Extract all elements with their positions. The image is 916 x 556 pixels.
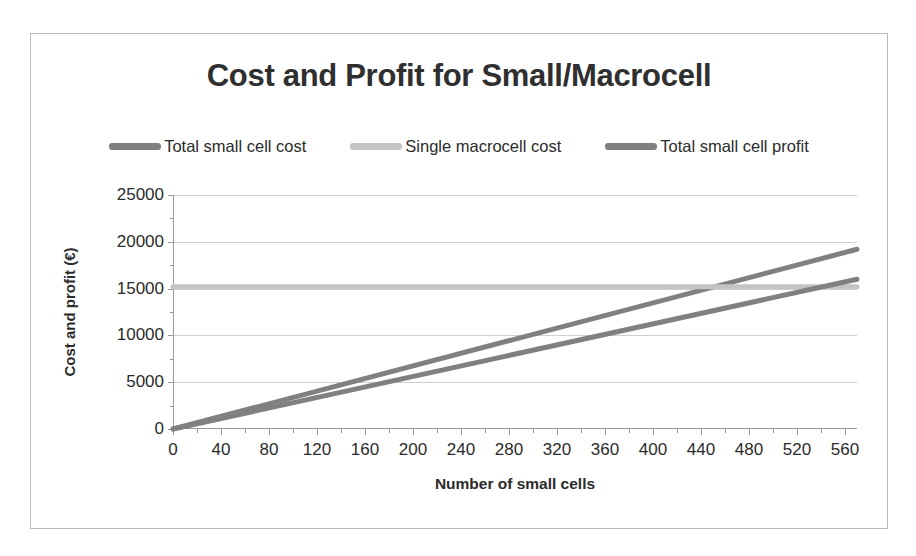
x-tick-label-480: 480	[735, 440, 763, 460]
legend-item-total-small-cell-profit[interactable]: Total small cell profit	[605, 137, 809, 156]
x-tick-480	[749, 429, 750, 435]
x-tick-label-280: 280	[495, 440, 523, 460]
y-tick-label-15000: 15000	[117, 279, 164, 299]
y-tick-label-25000: 25000	[117, 185, 164, 205]
x-tick-360	[605, 429, 606, 435]
x-tick-320	[557, 429, 558, 435]
legend-label-cost: Total small cell cost	[164, 137, 306, 156]
x-tick-300	[533, 429, 534, 433]
x-tick-80	[269, 429, 270, 435]
x-tick-label-80: 80	[260, 440, 279, 460]
x-tick-20	[197, 429, 198, 433]
x-tick-280	[509, 429, 510, 435]
chart-legend: Total small cell cost Single macrocell c…	[31, 137, 887, 156]
x-tick-260	[485, 429, 486, 433]
y-tick-label-5000: 5000	[126, 372, 164, 392]
x-tick-180	[389, 429, 390, 433]
legend-item-single-macrocell-cost[interactable]: Single macrocell cost	[350, 137, 561, 156]
legend-swatch-macrocell	[350, 143, 402, 150]
x-tick-label-0: 0	[168, 440, 177, 460]
series-line-total-small-cell-profit	[173, 279, 857, 429]
legend-label-macrocell: Single macrocell cost	[405, 137, 561, 156]
x-tick-380	[629, 429, 630, 433]
plot-area: 0500010000150002000025000 04080120160200…	[173, 195, 857, 429]
x-tick-540	[821, 429, 822, 433]
x-tick-120	[317, 429, 318, 435]
legend-label-profit: Total small cell profit	[660, 137, 809, 156]
legend-swatch-profit	[605, 143, 657, 150]
y-tick-label-0: 0	[155, 419, 164, 439]
legend-item-total-small-cell-cost[interactable]: Total small cell cost	[109, 137, 306, 156]
series-line-total-small-cell-cost	[173, 249, 857, 429]
legend-swatch-cost	[109, 143, 161, 150]
x-tick-200	[413, 429, 414, 435]
x-tick-label-560: 560	[831, 440, 859, 460]
y-tick-label-10000: 10000	[117, 325, 164, 345]
y-axis-title: Cost and profit (€)	[61, 247, 78, 376]
x-tick-340	[581, 429, 582, 433]
x-tick-40	[221, 429, 222, 435]
x-tick-label-120: 120	[303, 440, 331, 460]
x-tick-label-360: 360	[591, 440, 619, 460]
x-tick-label-160: 160	[351, 440, 379, 460]
x-tick-500	[773, 429, 774, 433]
x-tick-140	[341, 429, 342, 433]
x-tick-label-520: 520	[783, 440, 811, 460]
x-tick-label-400: 400	[639, 440, 667, 460]
chart-title: Cost and Profit for Small/Macrocell	[31, 58, 887, 94]
x-tick-440	[701, 429, 702, 435]
x-tick-400	[653, 429, 654, 435]
x-tick-label-440: 440	[687, 440, 715, 460]
chart-container: Cost and Profit for Small/Macrocell Tota…	[30, 33, 888, 529]
x-tick-240	[461, 429, 462, 435]
x-tick-label-240: 240	[447, 440, 475, 460]
x-tick-100	[293, 429, 294, 433]
series-lines	[173, 195, 857, 429]
x-axis-title: Number of small cells	[173, 475, 857, 493]
x-tick-label-40: 40	[212, 440, 231, 460]
x-tick-60	[245, 429, 246, 433]
x-tick-520	[797, 429, 798, 435]
x-tick-160	[365, 429, 366, 435]
x-tick-420	[677, 429, 678, 433]
x-tick-460	[725, 429, 726, 433]
x-tick-label-200: 200	[399, 440, 427, 460]
x-tick-220	[437, 429, 438, 433]
x-tick-label-320: 320	[543, 440, 571, 460]
x-tick-560	[845, 429, 846, 435]
y-tick-label-20000: 20000	[117, 232, 164, 252]
